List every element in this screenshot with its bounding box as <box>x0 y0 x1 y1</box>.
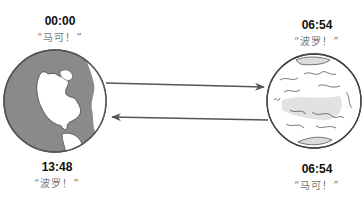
earth-send-time: 00:00 <box>20 14 100 28</box>
earth-globe-icon <box>4 50 107 156</box>
mars-bottom-label: 06:54 “马可！” <box>277 162 357 193</box>
mars-heard-quote: “马可！” <box>277 179 357 193</box>
arrow-mars-to-earth <box>112 117 268 120</box>
mars-receive-time: 06:54 <box>277 18 357 32</box>
earth-top-label: 00:00 “马可！” <box>20 14 100 45</box>
earth-receive-quote: “波罗！” <box>17 177 97 191</box>
earth-bottom-label: 13:48 “波罗！” <box>17 160 97 191</box>
arrow-earth-to-mars <box>106 83 264 87</box>
mars-top-label: 06:54 “波罗！” <box>277 18 357 49</box>
mars-globe-icon <box>267 54 361 148</box>
mars-reply-quote: “波罗！” <box>277 35 357 49</box>
mars-heard-time: 06:54 <box>277 162 357 176</box>
earth-receive-time: 13:48 <box>17 160 97 174</box>
earth-send-quote: “马可！” <box>20 31 100 45</box>
